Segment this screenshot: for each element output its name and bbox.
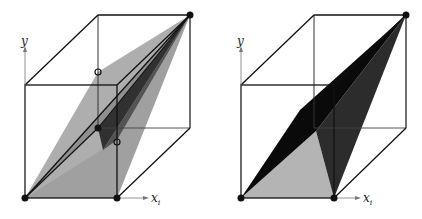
right-y-axis-label: y [236,34,244,48]
vertex-dot [331,195,338,202]
vertex-dot [403,12,410,19]
left-x-axis-label: xi [151,191,161,207]
right-cube-panel: y xi [236,12,410,208]
vertex-dot [22,195,29,202]
vertex-dot [238,195,245,202]
figure-canvas: y xi y xi [0,0,422,219]
vertex-dot [187,12,194,19]
vertex-dot [95,125,102,132]
left-y-axis-label: y [20,34,28,48]
vertex-dot [114,195,121,202]
left-cube-panel: y xi [20,12,194,208]
right-x-axis-label: xi [363,191,373,207]
